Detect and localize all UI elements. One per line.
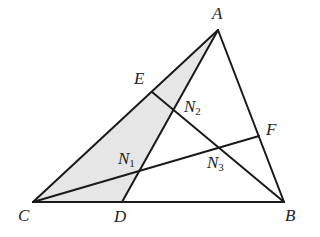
triangle-diagram: A B C D E F N1 N2 N3 bbox=[0, 0, 320, 237]
label-n3: N3 bbox=[207, 154, 224, 173]
label-c: C bbox=[18, 207, 29, 224]
label-n2-sub: 2 bbox=[195, 105, 201, 117]
diagram-svg bbox=[0, 0, 320, 237]
label-n3-sub: 3 bbox=[218, 161, 224, 173]
label-n2-main: N bbox=[184, 97, 195, 116]
label-b: B bbox=[285, 207, 295, 224]
label-n1-main: N bbox=[118, 149, 129, 168]
label-d: D bbox=[114, 208, 126, 225]
label-n1-sub: 1 bbox=[129, 157, 135, 169]
label-n3-main: N bbox=[207, 153, 218, 172]
segment-ab bbox=[218, 30, 284, 202]
label-e: E bbox=[134, 70, 144, 87]
label-n1: N1 bbox=[118, 150, 135, 169]
label-n2: N2 bbox=[184, 98, 201, 117]
label-f: F bbox=[266, 121, 276, 138]
label-a: A bbox=[212, 5, 222, 22]
